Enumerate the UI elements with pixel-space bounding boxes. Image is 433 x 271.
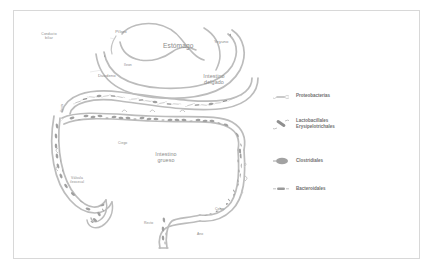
label-piloro: Píloro xyxy=(108,30,134,35)
legend-label-lactobacillales-erysipelotrichales: Lactobacillales Erysipelotrichales xyxy=(296,118,335,129)
dark-rod-icon xyxy=(272,117,290,133)
legend-label-proteobacterias: Proteobacterias xyxy=(296,93,330,99)
label-duodeno: Duodeno xyxy=(98,74,116,79)
flagellated-rod-icon xyxy=(272,90,290,104)
legend-label-clostridiales: Clostridiales xyxy=(296,158,323,164)
label-colon: Colon xyxy=(215,208,224,212)
legend-label-bacteroidales: Bacteroidales xyxy=(296,186,326,192)
label-ileon-upper: Íleon xyxy=(124,64,132,68)
label-yeyuno: Yeyuno xyxy=(214,40,228,45)
filled-oval-icon xyxy=(272,155,290,167)
label-conducto-biliar: Conducto biliar xyxy=(34,33,64,41)
gut-microbiota-figure: Conducto biliar Píloro Estómago Yeyuno D… xyxy=(0,0,433,271)
label-valvula-ileocecal: Válvula ileocecal xyxy=(63,177,91,185)
label-estomago: Estómago xyxy=(163,42,194,49)
label-ciego: Ciego xyxy=(118,142,127,146)
label-ileon-left: Íleon xyxy=(61,104,65,112)
small-dash-icon xyxy=(272,184,290,194)
label-intestino-grueso: Intestino grueso xyxy=(144,151,188,163)
label-ano: Ano xyxy=(197,233,203,237)
label-recto: Recto xyxy=(144,222,153,226)
label-intestino-delgado: Intestino delgado xyxy=(192,73,236,85)
